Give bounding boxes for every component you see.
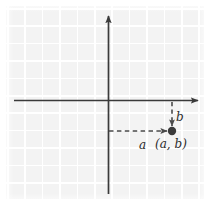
coordinate-plane-figure: a b (a, b) [0, 0, 212, 207]
axes-and-annotations-layer [0, 0, 212, 207]
label-b: b [176, 111, 184, 123]
label-point-ab: (a, b) [155, 138, 187, 150]
point-marker-ab [168, 127, 176, 135]
label-a: a [139, 139, 146, 151]
